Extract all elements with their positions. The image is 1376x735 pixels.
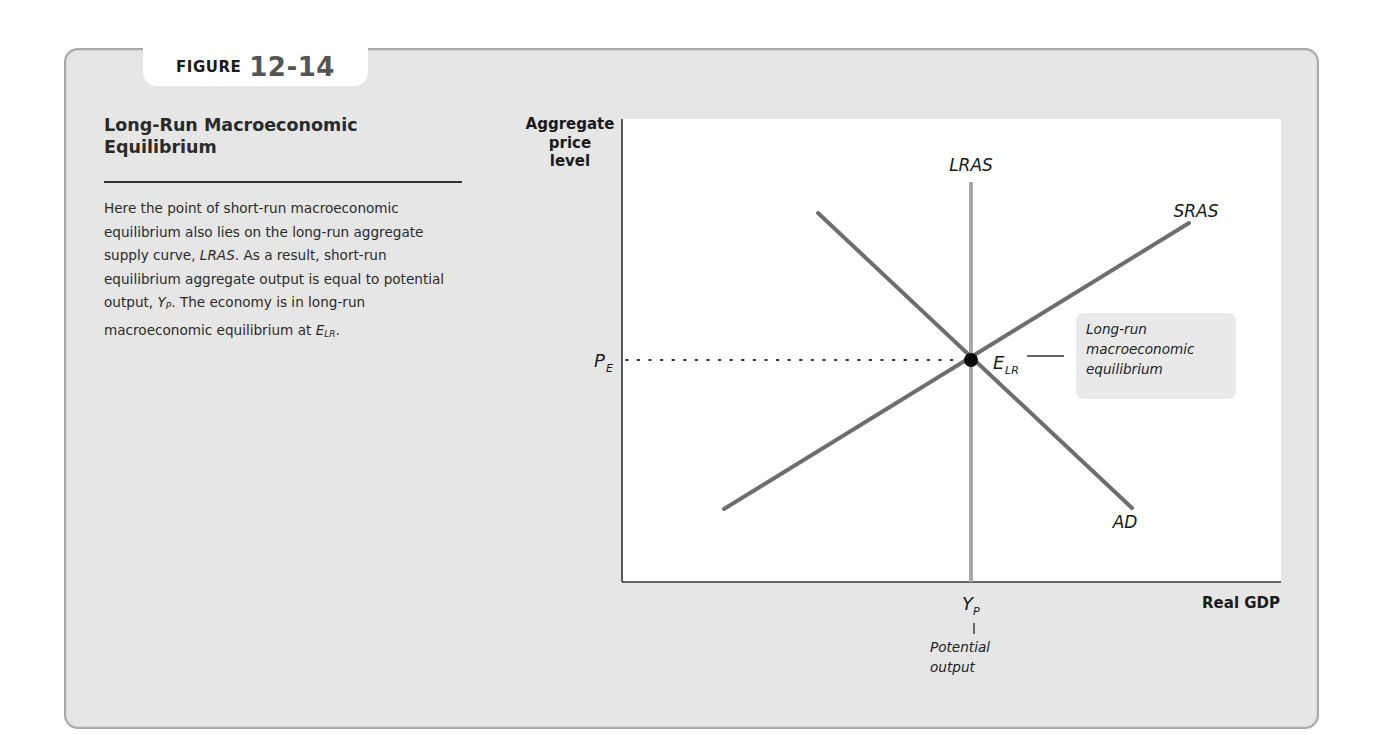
equilibrium-point xyxy=(964,353,978,367)
svg-text:P: P xyxy=(594,350,605,371)
lras-label: LRAS xyxy=(949,155,993,175)
svg-text:P: P xyxy=(973,605,980,618)
svg-text:LR: LR xyxy=(1005,364,1019,377)
elr-label: E LR xyxy=(993,352,1019,377)
x-axis-label: Real GDP xyxy=(1160,594,1280,612)
yp-tick-label: Y P xyxy=(962,593,980,618)
sras-label: SRAS xyxy=(1173,201,1218,221)
ad-label: AD xyxy=(1112,512,1138,532)
equilibrium-callout: Long-run macroeconomic equilibrium xyxy=(1076,313,1236,399)
svg-text:E: E xyxy=(993,352,1005,373)
pe-tick-label: P E xyxy=(594,350,613,375)
svg-text:E: E xyxy=(606,362,613,375)
potential-output-label: Potential output xyxy=(930,637,1010,677)
